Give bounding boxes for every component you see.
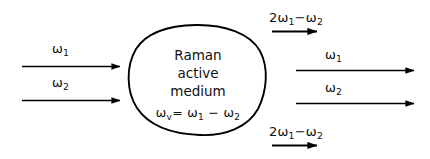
input-beam-1-label: ω1: [52, 42, 69, 55]
raman-medium-formula: ωv= ω1 − ω2: [141, 105, 255, 120]
input-beam-2-label: ω2: [52, 76, 69, 89]
minus-operator: −: [295, 124, 306, 139]
output-beam-2-label: ω2: [325, 81, 342, 94]
formula-minus-omega: − ω: [208, 105, 234, 120]
formula-subscript-1: 1: [198, 112, 204, 122]
omega-subscript: 1: [336, 53, 342, 64]
formula-omega-v: ω: [156, 105, 167, 120]
omega-subscript: 2: [63, 81, 69, 92]
omega-symbol: ω: [52, 75, 63, 90]
omega-symbol-2: ω: [306, 124, 317, 139]
output-anti-stokes-lower-label: 2ω1−ω2: [269, 125, 323, 138]
output-anti-stokes-upper-label: 2ω1−ω2: [269, 11, 323, 24]
omega-symbol: ω: [277, 124, 288, 139]
omega-subscript-2: 2: [317, 16, 323, 27]
raman-medium-line-3: medium: [150, 83, 246, 101]
omega-symbol: ω: [52, 41, 63, 56]
raman-medium-line-2: active: [150, 65, 246, 83]
minus-operator: −: [295, 10, 306, 25]
formula-subscript-2: 2: [234, 112, 240, 122]
omega-symbol: ω: [325, 47, 336, 62]
omega-subscript: 1: [289, 16, 295, 27]
omega-symbol-2: ω: [306, 10, 317, 25]
omega-symbol: ω: [325, 80, 336, 95]
omega-subscript: 1: [63, 47, 69, 58]
raman-medium-line-1: Raman: [150, 47, 246, 65]
formula-equals-omega: = ω: [172, 105, 198, 120]
omega-subscript: 2: [336, 86, 342, 97]
output-beam-1-label: ω1: [325, 48, 342, 61]
raman-medium-label: Raman active medium: [150, 47, 246, 100]
omega-subscript: 1: [289, 130, 295, 141]
raman-scattering-diagram: ω1 ω2 Raman active medium ωv= ω1 − ω2 2ω…: [0, 0, 430, 159]
omega-subscript-2: 2: [317, 130, 323, 141]
formula-subscript-v: v: [167, 112, 173, 122]
omega-symbol: ω: [277, 10, 288, 25]
